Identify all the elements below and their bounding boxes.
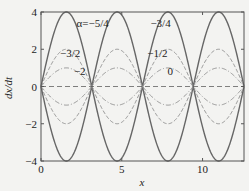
x-axis-label: x [139, 176, 145, 188]
series-curve [41, 87, 244, 124]
chart: 0510−4−2024 x dx/dt α=−5/4−3/4−3/2−1/2−2… [0, 0, 249, 191]
y-tick-label: −2 [25, 118, 37, 130]
y-tick-label: 4 [32, 6, 38, 18]
curve-annotation: α=−5/4 [77, 17, 110, 29]
series-curve [41, 87, 244, 162]
y-tick-label: −4 [25, 155, 37, 167]
curve-annotation: −3/2 [60, 47, 80, 59]
curves [41, 12, 244, 161]
curve-annotation: 0 [167, 65, 173, 77]
x-tick-label: 10 [197, 163, 209, 175]
y-tick-label: 2 [32, 43, 38, 55]
y-axis-label: dx/dt [2, 76, 14, 99]
curve-annotation: −1/2 [147, 47, 167, 59]
y-tick-label: 0 [32, 81, 38, 93]
x-tick-label: 0 [38, 163, 44, 175]
curve-annotation: −3/4 [150, 17, 171, 29]
curve-annotation: −2 [74, 65, 86, 77]
annotations: α=−5/4−3/4−3/2−1/2−20 [60, 17, 174, 77]
x-tick-label: 5 [119, 163, 125, 175]
